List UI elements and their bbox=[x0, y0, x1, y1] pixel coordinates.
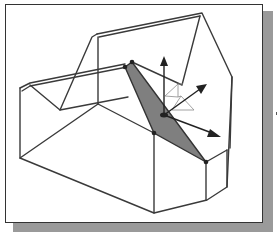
back-block-edges bbox=[20, 13, 232, 213]
right-arrow-icon[interactable] bbox=[207, 129, 221, 137]
gizmo-origin[interactable] bbox=[160, 113, 168, 118]
front-block-edges bbox=[20, 64, 227, 213]
depth-arrow-icon[interactable] bbox=[196, 84, 207, 94]
gizmo-depth-axis[interactable] bbox=[164, 89, 200, 115]
up-arrow-icon[interactable] bbox=[160, 56, 168, 66]
wireframe-model bbox=[0, 0, 278, 234]
